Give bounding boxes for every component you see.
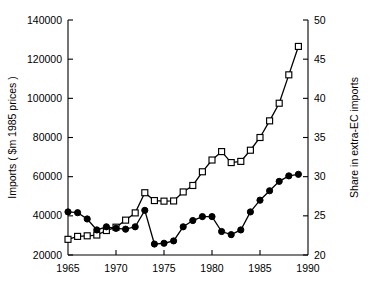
data-point-marker [75, 210, 81, 216]
x-axis-tick-label: 1990 [296, 262, 320, 274]
y-axis-tick-label: 40000 [33, 209, 62, 221]
data-point-marker [171, 238, 177, 244]
data-point-marker [209, 214, 215, 220]
data-point-marker [199, 169, 205, 175]
data-point-marker [247, 209, 253, 215]
data-point-marker [276, 178, 282, 184]
data-point-marker [171, 198, 177, 204]
y2-axis-tick-label: 35 [314, 131, 326, 143]
data-point-marker [161, 198, 167, 204]
data-point-marker [219, 228, 225, 234]
data-point-marker [209, 157, 215, 163]
y-axis-tick-label: 100000 [27, 92, 62, 104]
dual-axis-line-chart: 2000040000600008000010000012000014000020… [0, 0, 374, 290]
data-point-marker [286, 173, 292, 179]
data-point-marker [295, 43, 301, 49]
data-point-marker [132, 224, 138, 230]
y-axis-tick-label: 60000 [33, 170, 62, 182]
data-point-marker [103, 224, 109, 230]
data-point-marker [65, 209, 71, 215]
data-point-marker [94, 227, 100, 233]
data-point-marker [276, 100, 282, 106]
data-point-marker [84, 216, 90, 222]
data-point-marker [228, 160, 234, 166]
x-axis-tick-label: 1965 [56, 262, 80, 274]
x-axis-tick-label: 1970 [104, 262, 128, 274]
y2-axis-tick-label: 20 [314, 249, 326, 261]
data-point-marker [228, 232, 234, 238]
data-point-marker [219, 149, 225, 155]
data-point-marker [247, 147, 253, 153]
y-axis-tick-label: 80000 [33, 131, 62, 143]
data-point-marker [295, 171, 301, 177]
x-axis-tick-label: 1985 [248, 262, 272, 274]
data-point-marker [113, 225, 119, 231]
data-point-marker [180, 189, 186, 195]
data-point-marker [199, 214, 205, 220]
data-point-marker [238, 227, 244, 233]
x-axis-tick-label: 1975 [152, 262, 176, 274]
x-axis-tick-label: 1980 [200, 262, 224, 274]
series-line [68, 174, 298, 244]
data-point-marker [123, 226, 129, 232]
data-point-marker [161, 240, 167, 246]
data-point-marker [190, 182, 196, 188]
data-point-marker [142, 190, 148, 196]
data-point-marker [151, 241, 157, 247]
y-axis-tick-label: 120000 [27, 53, 62, 65]
y-axis-title: Imports ( $m 1985 prices ) [6, 76, 18, 199]
data-point-marker [267, 118, 273, 124]
data-point-marker [257, 197, 263, 203]
data-point-marker [132, 210, 138, 216]
data-point-marker [180, 224, 186, 230]
y-axis-tick-label: 140000 [27, 14, 62, 26]
y2-axis-tick-label: 45 [314, 53, 326, 65]
data-point-marker [65, 236, 71, 242]
data-point-marker [123, 217, 129, 223]
data-point-marker [84, 233, 90, 239]
y-axis-tick-label: 20000 [33, 249, 62, 261]
y2-axis-tick-label: 40 [314, 92, 326, 104]
y2-axis-tick-label: 30 [314, 170, 326, 182]
data-point-marker [75, 233, 81, 239]
y2-axis-title: Share in extra-EC imports [348, 77, 360, 198]
data-point-marker [257, 135, 263, 141]
axes-layer: 2000040000600008000010000012000014000020… [27, 14, 326, 274]
y2-axis-tick-label: 50 [314, 14, 326, 26]
series-line [68, 46, 298, 239]
data-point-marker [238, 158, 244, 164]
y2-axis-tick-label: 25 [314, 209, 326, 221]
data-point-marker [151, 198, 157, 204]
chart-container: 2000040000600008000010000012000014000020… [0, 0, 374, 290]
series-imports [65, 43, 301, 242]
data-point-marker [190, 217, 196, 223]
data-point-marker [286, 72, 292, 78]
series-share-extra-ec-imports [65, 171, 302, 247]
data-point-marker [142, 207, 148, 213]
series-layer [65, 43, 302, 247]
data-point-marker [267, 188, 273, 194]
